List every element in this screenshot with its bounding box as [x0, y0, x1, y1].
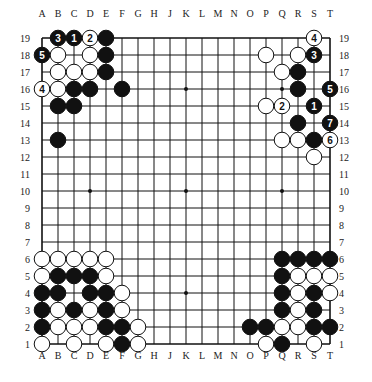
column-label: B: [55, 8, 62, 19]
move-number: 1: [71, 33, 77, 44]
star-point-icon: [88, 189, 92, 193]
move-number: 5: [327, 84, 333, 95]
white-stone: 2: [274, 98, 290, 114]
column-label: K: [182, 350, 190, 361]
column-label: M: [214, 8, 223, 19]
white-stone: [290, 285, 306, 301]
white-stone: [82, 302, 98, 318]
black-stone: [306, 251, 322, 267]
column-label: R: [295, 350, 302, 361]
black-stone: 5: [322, 81, 338, 97]
white-stone: [322, 285, 338, 301]
black-stone: [98, 30, 114, 46]
row-label: 3: [25, 305, 30, 316]
black-stone: [306, 319, 322, 335]
move-number: 3: [55, 33, 61, 44]
row-label: 5: [339, 271, 344, 282]
black-stone: [306, 285, 322, 301]
white-stone: [50, 47, 66, 63]
black-stone: [82, 268, 98, 284]
row-label: 6: [25, 254, 30, 265]
move-number: 3: [311, 50, 317, 61]
white-stone: [290, 302, 306, 318]
row-label: 8: [339, 220, 344, 231]
column-label: L: [199, 8, 205, 19]
white-stone: [274, 64, 290, 80]
white-stone: [258, 47, 274, 63]
black-stone: [290, 64, 306, 80]
black-stone: [82, 81, 98, 97]
white-stone: [50, 319, 66, 335]
black-stone: [274, 251, 290, 267]
row-label: 13: [20, 135, 30, 146]
row-label: 9: [25, 203, 30, 214]
black-stone: [322, 319, 338, 335]
row-label: 14: [20, 118, 30, 129]
column-label: S: [311, 8, 317, 19]
row-label: 1: [25, 339, 30, 350]
row-label: 19: [20, 33, 30, 44]
column-label: K: [182, 8, 190, 19]
row-label: 7: [339, 237, 344, 248]
black-stone: [274, 336, 290, 352]
row-labels-left: 19181716151413121110987654321: [20, 33, 30, 350]
column-label: Q: [278, 8, 286, 19]
white-stone: [50, 302, 66, 318]
column-label: M: [214, 350, 223, 361]
white-stone: [34, 251, 50, 267]
column-label: L: [199, 350, 205, 361]
black-stone: [50, 132, 66, 148]
row-label: 16: [339, 84, 349, 95]
black-stone: [34, 302, 50, 318]
column-label: N: [230, 8, 237, 19]
column-label: C: [71, 8, 78, 19]
row-label: 13: [339, 135, 349, 146]
white-stone: [34, 336, 50, 352]
white-stone: [66, 251, 82, 267]
black-stone: [114, 336, 130, 352]
star-point-icon: [280, 189, 284, 193]
white-stone: [82, 251, 98, 267]
column-label: A: [38, 8, 46, 19]
white-stone: [290, 132, 306, 148]
column-label: T: [327, 8, 333, 19]
white-stone: [306, 336, 322, 352]
black-stone: [98, 47, 114, 63]
row-label: 11: [339, 169, 349, 180]
white-stone: [82, 319, 98, 335]
column-label: D: [86, 350, 93, 361]
black-stone: [34, 319, 50, 335]
row-label: 10: [20, 186, 30, 197]
column-label: O: [246, 350, 253, 361]
black-stone: 7: [322, 115, 338, 131]
column-label: E: [103, 8, 109, 19]
white-stone: [130, 319, 146, 335]
white-stone: [66, 64, 82, 80]
row-label: 2: [25, 322, 30, 333]
row-label: 1: [339, 339, 344, 350]
row-label: 9: [339, 203, 344, 214]
column-label: O: [246, 8, 253, 19]
black-stone: [98, 285, 114, 301]
row-label: 3: [339, 305, 344, 316]
black-stone: 1: [66, 30, 82, 46]
black-stone: [274, 302, 290, 318]
black-stone: [306, 302, 322, 318]
row-label: 15: [339, 101, 349, 112]
column-label: H: [150, 350, 157, 361]
star-point-icon: [184, 291, 188, 295]
black-stone: [50, 268, 66, 284]
black-stone: [290, 115, 306, 131]
white-stone: [290, 319, 306, 335]
black-stone: [290, 81, 306, 97]
white-stone: [114, 285, 130, 301]
row-label: 16: [20, 84, 30, 95]
white-stone: [306, 268, 322, 284]
white-stone: [50, 81, 66, 97]
row-labels-right: 19181716151413121110987654321: [339, 33, 349, 350]
black-stone: [114, 319, 130, 335]
column-label: P: [263, 8, 269, 19]
white-stone: [34, 268, 50, 284]
black-stone: [66, 98, 82, 114]
white-stone: [258, 98, 274, 114]
